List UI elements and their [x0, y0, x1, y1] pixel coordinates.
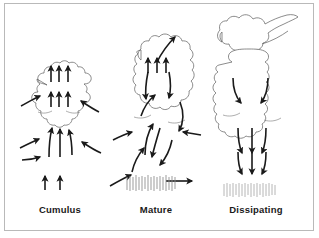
- dissipating-precipitation: [224, 183, 275, 197]
- cumulus-cloud-outline: [32, 61, 91, 128]
- dissipating-cloud-outline: [213, 49, 269, 138]
- thunderstorm-lifecycle-figure: Cumulus Mature Dissipating: [0, 0, 319, 238]
- mature-inflow-outflow-arrows: [110, 132, 201, 186]
- stage-mature-group: [110, 34, 201, 191]
- mature-precipitation: [127, 175, 175, 191]
- diagram-canvas: [0, 0, 319, 238]
- stage-label-mature: Mature: [108, 204, 204, 215]
- mature-cloud-outline: [133, 34, 194, 110]
- stage-label-dissipating: Dissipating: [204, 204, 308, 215]
- dissipating-anvil-outline: [218, 15, 298, 53]
- stage-dissipating-group: [213, 15, 298, 197]
- stage-label-cumulus: Cumulus: [12, 204, 108, 215]
- stage-cumulus-group: [20, 61, 101, 190]
